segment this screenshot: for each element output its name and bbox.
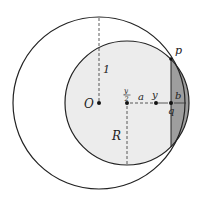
circles-diagram: O 1 R y 2 a y b p q (0, 0, 199, 202)
label-1: 1 (103, 63, 110, 76)
label-a: a (138, 91, 144, 102)
point-p (169, 57, 173, 61)
point-O (97, 101, 101, 105)
point-y (154, 101, 158, 105)
label-y: y (151, 89, 158, 100)
label-y-half-den: 2 (124, 95, 129, 103)
diagram-canvas: O 1 R y 2 a y b p q (0, 0, 199, 202)
label-p: p (175, 44, 182, 57)
label-R: R (111, 129, 121, 143)
label-q: q (168, 105, 174, 116)
label-O: O (84, 97, 94, 111)
label-b: b (175, 90, 181, 101)
